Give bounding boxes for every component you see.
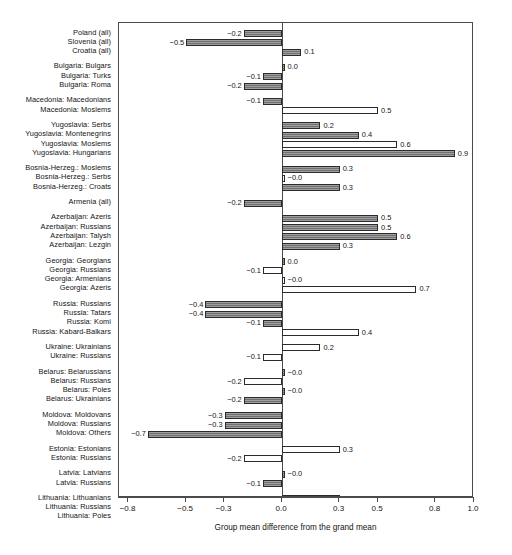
- category-label: Russia: Komi: [67, 318, 111, 326]
- category-label: Russia: Kabard-Balkars: [32, 328, 111, 336]
- category-label: Slovenia (all): [68, 38, 111, 46]
- x-axis-tick-label: 0.8: [429, 504, 440, 513]
- bar-value-label: 0.9: [458, 150, 468, 158]
- bar: [244, 30, 282, 37]
- bar: [263, 267, 282, 274]
- bar-value-label: 0.5: [381, 107, 391, 115]
- category-label: Macedonia: Macedonians: [26, 96, 111, 104]
- bar: [282, 224, 378, 231]
- bar-value-label: −0.0: [288, 470, 303, 478]
- bar-value-label: 0.4: [362, 329, 372, 337]
- bar: [282, 388, 285, 395]
- bar-value-label: 0.5: [381, 224, 391, 232]
- bar: [282, 184, 340, 191]
- bar-value-label: 0.0: [288, 258, 298, 266]
- x-axis-tick-label: 0.5: [371, 504, 382, 513]
- bar-value-label: 0.6: [400, 233, 410, 241]
- x-axis-tick: [185, 497, 186, 502]
- bar-value-label: 0.3: [343, 184, 353, 192]
- x-axis-tick: [127, 497, 128, 502]
- bar-value-label: −0.3: [208, 412, 223, 420]
- bar-value-label: −0.5: [170, 39, 185, 47]
- x-axis-tick-label: −0.3: [216, 504, 232, 513]
- category-label: Russia: Tatars: [64, 309, 111, 317]
- category-axis-labels: Poland (all)Slovenia (all)Croatia (all)B…: [0, 22, 115, 497]
- category-label: Bosnia-Herzeg.: Serbs: [36, 173, 111, 181]
- bar: [225, 412, 283, 419]
- bar-value-label: −0.2: [227, 378, 242, 386]
- category-label: Armenia (all): [68, 198, 111, 206]
- bar-value-label: −0.2: [227, 455, 242, 463]
- bar-value-label: −0.2: [227, 396, 242, 404]
- bar-value-label: 0.3: [343, 242, 353, 250]
- bar: [263, 320, 282, 327]
- bar-value-label: 0.2: [323, 122, 333, 130]
- bar: [282, 344, 320, 351]
- category-label: Estonia: Estonians: [49, 445, 111, 453]
- bar: [282, 471, 285, 478]
- category-label: Belarus: Poles: [63, 386, 111, 394]
- bar-value-label: 0.5: [381, 214, 391, 222]
- x-axis-title: Group mean difference from the grand mea…: [118, 523, 473, 533]
- bar: [244, 378, 282, 385]
- bar: [205, 301, 282, 308]
- category-label: Croatia (all): [72, 47, 111, 55]
- bar: [263, 98, 282, 105]
- bar-value-label: 0.0: [288, 63, 298, 71]
- category-label: Azerbaijan: Azeris: [51, 213, 111, 221]
- bar-value-label: −0.4: [189, 301, 204, 309]
- category-label: Moldova: Russians: [48, 420, 111, 428]
- category-label: Yugoslavia: Hungarians: [32, 149, 111, 157]
- x-axis-tick: [223, 497, 224, 502]
- category-label: Azerbaijan: Lezgin: [49, 241, 111, 249]
- bar-value-label: −0.0: [288, 369, 303, 377]
- category-label: Belarus: Ukrainians: [46, 395, 111, 403]
- bar: [282, 215, 378, 222]
- bar: [282, 258, 285, 265]
- bar-value-label: 0.2: [323, 344, 333, 352]
- category-label: Yugoslavia: Serbs: [51, 121, 111, 129]
- category-label: Yugoslavia: Moslems: [41, 140, 111, 148]
- category-label: Ukraine: Ukrainians: [46, 343, 111, 351]
- category-label: Latvia: Russians: [56, 479, 111, 487]
- bar: [244, 455, 282, 462]
- x-axis-tick: [281, 497, 282, 502]
- x-axis-tick-label: 0.0: [276, 504, 287, 513]
- bar: [282, 132, 359, 139]
- bar: [282, 150, 455, 157]
- bar: [282, 122, 320, 129]
- bar-value-label: −0.2: [227, 30, 242, 38]
- x-axis-tick-label: −0.8: [120, 504, 136, 513]
- bar-value-label: −0.1: [246, 267, 261, 275]
- category-label: Bosnia-Herzeg.: Croats: [33, 183, 111, 191]
- category-label: Lithuania: Lithuanians: [38, 494, 111, 502]
- bar-value-label: 0.6: [400, 141, 410, 149]
- bar: [263, 73, 282, 80]
- bar: [282, 64, 285, 71]
- bar-value-label: −0.1: [246, 73, 261, 81]
- bar-value-label: 0.4: [362, 131, 372, 139]
- category-label: Ukraine: Russians: [50, 352, 111, 360]
- bar: [282, 446, 340, 453]
- bar: [244, 397, 282, 404]
- category-label: Bulgaria: Roma: [59, 81, 111, 89]
- bar-value-label: −0.4: [189, 310, 204, 318]
- bar-value-label: −0.7: [131, 430, 146, 438]
- bar-value-label: −0.1: [246, 319, 261, 327]
- bar-value-label: −0.2: [227, 82, 242, 90]
- bar-value-label: 0.3: [343, 446, 353, 454]
- category-label: Latvia: Latvians: [59, 469, 111, 477]
- x-axis-tick: [473, 497, 474, 502]
- category-label: Poland (all): [73, 29, 111, 37]
- category-label: Bulgaria: Bulgars: [54, 62, 111, 70]
- x-axis-tick: [377, 497, 378, 502]
- bar-value-label: −0.1: [246, 97, 261, 105]
- bar: [282, 243, 340, 250]
- bar: [225, 422, 283, 429]
- bar: [282, 286, 416, 293]
- category-label: Belarus: Belarussians: [38, 368, 111, 376]
- bar-value-label: −0.0: [288, 387, 303, 395]
- bar-value-label: −0.1: [246, 353, 261, 361]
- bar: [282, 141, 397, 148]
- plot-area: −0.2−0.50.10.0−0.1−0.2−0.10.50.20.40.60.…: [118, 22, 473, 497]
